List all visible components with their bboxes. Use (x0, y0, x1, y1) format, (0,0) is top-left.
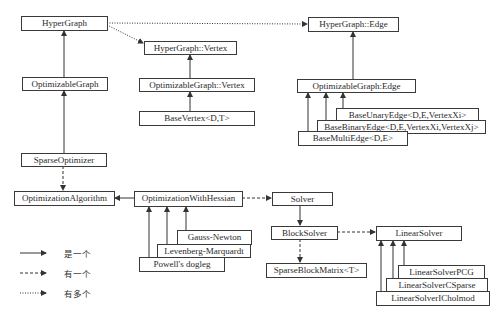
node-hypergraph: HyperGraph (21, 16, 108, 31)
node-gauss-newton: Gauss-Newton (177, 230, 252, 245)
node-solver: Solver (272, 192, 333, 206)
node-levenberg-marquardt: Levenberg-Marquardt (157, 244, 251, 258)
node-powells-dogleg: Powell's dogleg (139, 257, 225, 272)
node-linear-solver-pcg: LinearSolverPCG (398, 265, 485, 279)
node-sparse-optimizer: SparseOptimizer (21, 153, 107, 167)
node-optimizable-graph-edge: OptimizableGraph:Edge (297, 79, 416, 93)
node-optimization-algorithm: OptimizationAlgorithm (14, 191, 115, 206)
node-hypergraph-edge: HyperGraph::Edge (308, 17, 399, 32)
g2o-class-diagram: HyperGraph HyperGraph::Vertex HyperGraph… (0, 0, 504, 319)
node-linear-solver: LinearSolver (376, 226, 462, 241)
node-sparse-block-matrix: SparseBlockMatrix<T> (266, 263, 367, 278)
node-base-vertex: BaseVertex<D,T> (139, 111, 255, 126)
node-optimization-with-hessian: OptimizationWithHessian (134, 191, 243, 207)
node-optimizable-graph: OptimizableGraph (22, 77, 108, 91)
node-linear-solver-icholmod: LinearSolverICholmod (376, 291, 490, 306)
legend-is-a-label: 是一个 (64, 247, 91, 259)
legend-has-a-label: 有一个 (64, 267, 91, 279)
node-base-multi-edge: BaseMultiEdge<D,E> (298, 131, 408, 146)
node-block-solver: BlockSolver (271, 226, 338, 240)
legend-has-many-label: 有多个 (64, 287, 91, 299)
node-linear-solver-csparse: LinearSolverCSparse (386, 278, 488, 292)
node-hypergraph-vertex: HyperGraph::Vertex (144, 41, 237, 55)
node-optimizable-graph-vertex: OptimizableGraph::Vertex (139, 78, 255, 92)
